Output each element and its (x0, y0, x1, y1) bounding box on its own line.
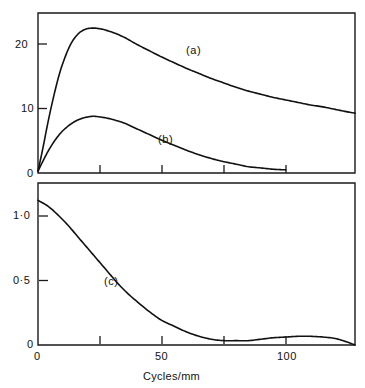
curve-a-group (38, 14, 355, 172)
x-tick-0: 0 (34, 350, 41, 362)
x-tick-50: 50 (155, 350, 168, 362)
figure-container: 20 10 0 1·0 0·5 0 0 50 100 Cycles/mm (a)… (0, 0, 365, 388)
x-axis-title: Cycles/mm (143, 370, 200, 382)
lower-panel-y-ticks (39, 216, 48, 281)
curve-a-label: (a) (186, 44, 201, 56)
curve-c-label: (c) (104, 275, 119, 287)
upper-y-tick-20: 20 (15, 38, 28, 50)
upper-y-tick-0: 0 (27, 167, 34, 179)
lower-y-tick-0-5: 0·5 (13, 274, 30, 286)
curve-b-label: (b) (158, 133, 173, 145)
x-tick-100: 100 (277, 350, 297, 362)
lower-panel-frame (38, 183, 355, 345)
mtf-curves-chart (0, 0, 365, 388)
curve-c (38, 200, 355, 345)
lower-y-tick-0: 0 (27, 338, 34, 350)
lower-y-tick-1-0: 1·0 (13, 209, 30, 221)
lower-panel (38, 183, 355, 345)
upper-y-tick-10: 10 (21, 102, 34, 114)
